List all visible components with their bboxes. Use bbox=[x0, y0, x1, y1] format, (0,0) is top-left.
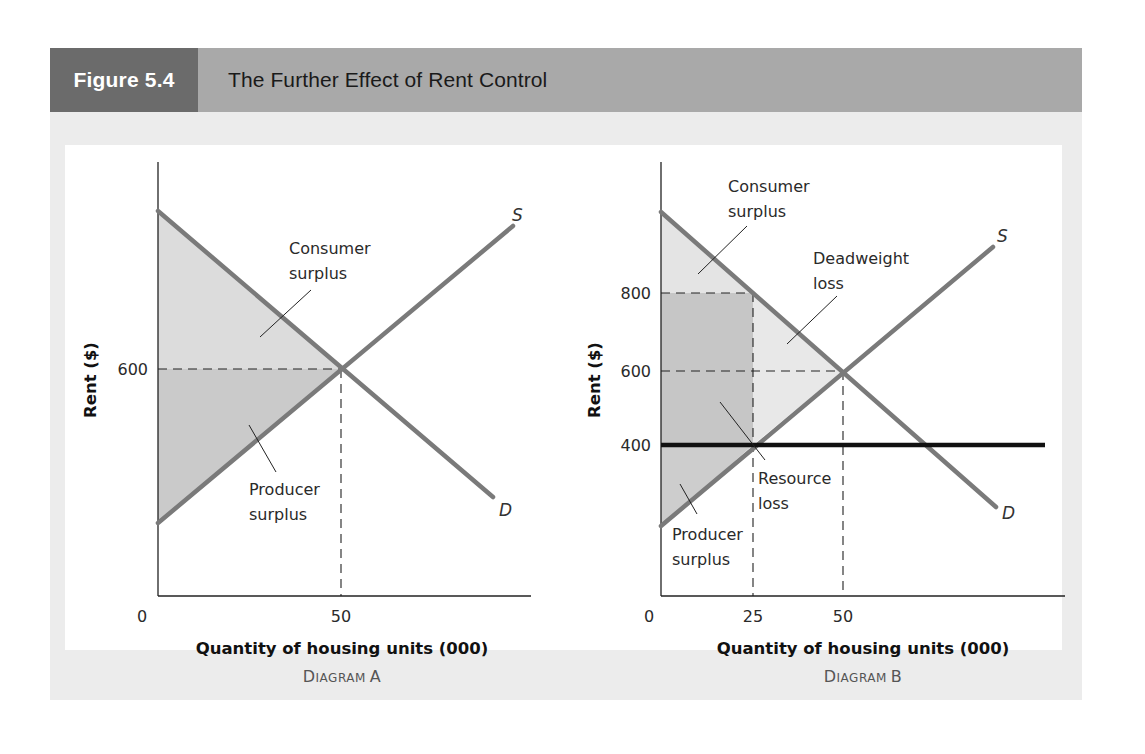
origin-label: 0 bbox=[644, 607, 654, 626]
diagram-a-caption: DIAGRAMA bbox=[303, 667, 382, 686]
y-tick-600: 600 bbox=[620, 362, 651, 381]
supply-label: S bbox=[997, 226, 1008, 246]
y-tick-800: 800 bbox=[620, 284, 651, 303]
diagram-b-caption: DIAGRAMB bbox=[824, 667, 903, 686]
supply-label: S bbox=[512, 205, 523, 225]
deadweight-loss-leader bbox=[787, 296, 837, 344]
deadweight-loss-region bbox=[753, 293, 843, 445]
resource-loss-label-2: loss bbox=[758, 494, 789, 513]
y-axis-title: Rent ($) bbox=[81, 342, 100, 418]
x-tick-25: 25 bbox=[743, 607, 763, 626]
producer-surplus-label-1: Producer bbox=[249, 480, 320, 499]
x-axis-title: Quantity of housing units (000) bbox=[717, 639, 1010, 658]
diagram-a: Consumer surplus Producer surplus S D 60… bbox=[81, 162, 531, 686]
y-tick-600: 600 bbox=[117, 360, 148, 379]
resource-loss-label-1: Resource bbox=[758, 469, 831, 488]
origin-label: 0 bbox=[137, 607, 147, 626]
producer-surplus-label-2: surplus bbox=[672, 550, 730, 569]
demand-label: D bbox=[499, 500, 512, 520]
consumer-surplus-label-1: Consumer bbox=[289, 239, 371, 258]
deadweight-loss-label-2: loss bbox=[813, 274, 844, 293]
charts-svg: Consumer surplus Producer surplus S D 60… bbox=[0, 0, 1145, 754]
producer-surplus-label-2: surplus bbox=[249, 505, 307, 524]
x-axis-title: Quantity of housing units (000) bbox=[196, 639, 489, 658]
y-tick-400: 400 bbox=[620, 436, 651, 455]
deadweight-loss-label-1: Deadweight bbox=[813, 249, 909, 268]
consumer-surplus-label-2: surplus bbox=[728, 202, 786, 221]
resource-loss-region bbox=[661, 293, 753, 445]
diagram-b: Consumer surplus Deadweight loss Resourc… bbox=[585, 162, 1065, 686]
producer-surplus-label-1: Producer bbox=[672, 525, 743, 544]
consumer-surplus-label-1: Consumer bbox=[728, 177, 810, 196]
x-tick-50: 50 bbox=[833, 607, 853, 626]
consumer-surplus-label-2: surplus bbox=[289, 264, 347, 283]
y-axis-title: Rent ($) bbox=[585, 342, 604, 418]
demand-label: D bbox=[1002, 503, 1015, 523]
x-tick-50: 50 bbox=[331, 607, 351, 626]
